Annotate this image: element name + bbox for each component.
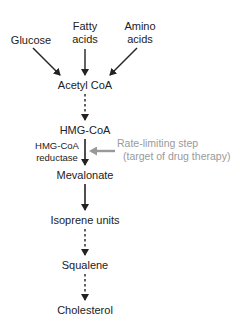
enzyme-line2: reductase — [35, 152, 79, 164]
enzyme-hmg-coa-reductase: HMG-CoA reductase — [35, 140, 79, 163]
arrow-glucose-acetylcoa — [33, 48, 60, 75]
node-cholesterol: Cholesterol — [57, 304, 113, 317]
enzyme-line1: HMG-CoA — [35, 140, 79, 152]
node-amino-acids: Amino acids — [124, 20, 155, 46]
node-hmg-coa: HMG-CoA — [60, 124, 111, 137]
annotation-rate-limiting: Rate-limiting step (target of drug thera… — [117, 137, 230, 163]
node-amino-acids-line2: acids — [124, 33, 155, 46]
node-glucose: Glucose — [11, 34, 51, 47]
node-fatty-acids: Fatty acids — [72, 20, 98, 46]
arrow-aminoacids-acetylcoa — [110, 48, 137, 75]
node-amino-acids-line1: Amino — [124, 20, 155, 33]
node-acetyl-coa: Acetyl CoA — [58, 79, 112, 92]
node-fatty-acids-line1: Fatty — [72, 20, 98, 33]
annotation-line1: Rate-limiting step — [117, 137, 230, 150]
node-squalene: Squalene — [62, 259, 109, 272]
node-fatty-acids-line2: acids — [72, 33, 98, 46]
annotation-line2: (target of drug therapy) — [117, 150, 230, 163]
node-mevalonate: Mevalonate — [57, 169, 114, 182]
node-isoprene-units: Isoprene units — [50, 214, 119, 227]
